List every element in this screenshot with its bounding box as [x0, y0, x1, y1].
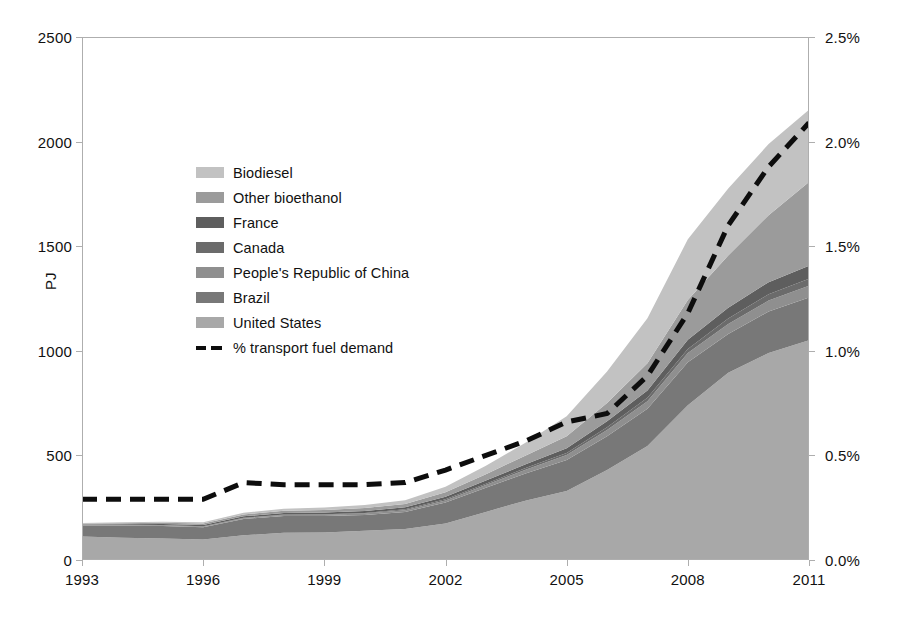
y2-tick-label: 2.5% — [825, 29, 895, 46]
legend-item: Biodiesel — [196, 160, 409, 185]
y-tick — [76, 455, 82, 456]
chart-legend: BiodieselOther bioethanolFranceCanadaPeo… — [196, 160, 409, 360]
x-tick-label: 1993 — [42, 571, 122, 588]
y-tick-label: 2000 — [6, 133, 72, 150]
y2-tick-label: 0.5% — [825, 447, 895, 464]
y2-tick — [809, 351, 815, 352]
y-tick-label: 2500 — [6, 29, 72, 46]
y-tick-label: 500 — [6, 447, 72, 464]
y-tick — [76, 142, 82, 143]
legend-item: France — [196, 210, 409, 235]
legend-item: Brazil — [196, 285, 409, 310]
legend-item: Other bioethanol — [196, 185, 409, 210]
y-tick-label: 1500 — [6, 238, 72, 255]
x-tick-label: 2002 — [406, 571, 486, 588]
legend-color-swatch — [196, 192, 224, 203]
x-tick — [809, 560, 810, 566]
legend-item: % transport fuel demand — [196, 335, 409, 360]
x-tick — [567, 560, 568, 566]
y-tick — [76, 246, 82, 247]
x-tick-label: 1999 — [284, 571, 364, 588]
x-tick — [203, 560, 204, 566]
legend-color-swatch — [196, 242, 224, 253]
y2-tick — [809, 455, 815, 456]
legend-item: Canada — [196, 235, 409, 260]
y-tick-label: 0 — [6, 552, 72, 569]
x-tick-label: 2005 — [527, 571, 607, 588]
legend-label: United States — [233, 315, 321, 331]
y-tick — [76, 37, 82, 38]
y2-tick-label: 2.0% — [825, 133, 895, 150]
legend-label: Brazil — [233, 290, 270, 306]
x-tick-label: 2008 — [648, 571, 728, 588]
y2-tick — [809, 142, 815, 143]
x-tick — [688, 560, 689, 566]
legend-label: Biodiesel — [233, 165, 293, 181]
legend-label: Other bioethanol — [233, 190, 342, 206]
legend-item: United States — [196, 310, 409, 335]
plot-top-border — [82, 37, 809, 38]
y-axis-title: PJ — [42, 272, 59, 290]
legend-color-swatch — [196, 167, 224, 178]
legend-label: People's Republic of China — [233, 265, 409, 281]
chart-canvas — [82, 37, 809, 560]
y2-tick-label: 0.0% — [825, 552, 895, 569]
x-tick — [82, 560, 83, 566]
x-tick — [324, 560, 325, 566]
y2-tick-label: 1.5% — [825, 238, 895, 255]
legend-item: People's Republic of China — [196, 260, 409, 285]
y2-tick-label: 1.0% — [825, 342, 895, 359]
legend-label: % transport fuel demand — [233, 340, 393, 356]
y2-tick — [809, 246, 815, 247]
y2-axis-line — [808, 37, 809, 560]
legend-label: France — [233, 215, 279, 231]
legend-color-swatch — [196, 292, 224, 303]
legend-color-swatch — [196, 317, 224, 328]
x-tick-label: 1996 — [163, 571, 243, 588]
legend-label: Canada — [233, 240, 284, 256]
legend-color-swatch — [196, 267, 224, 278]
y-axis-line — [82, 37, 83, 560]
x-tick-label: 2011 — [769, 571, 849, 588]
y-tick-label: 1000 — [6, 342, 72, 359]
plot-area — [82, 37, 809, 560]
y2-tick — [809, 37, 815, 38]
legend-color-swatch — [196, 217, 224, 228]
x-tick — [446, 560, 447, 566]
legend-dashed-line-swatch — [196, 342, 224, 353]
y-tick — [76, 351, 82, 352]
chart-figure: PJ 05001000150020002500 0.0%0.5%1.0%1.5%… — [0, 0, 907, 620]
